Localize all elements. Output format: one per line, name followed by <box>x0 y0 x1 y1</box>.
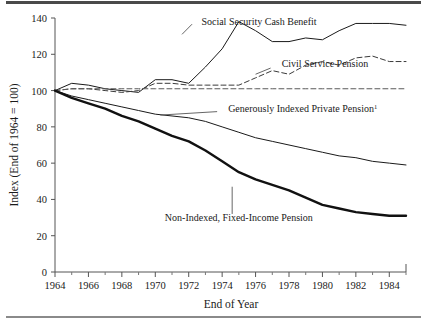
y-tick-label: 140 <box>31 13 47 24</box>
annotation-leader-line <box>160 112 217 115</box>
x-tick-label: 1964 <box>45 280 67 291</box>
x-tick-label: 1976 <box>245 280 266 291</box>
x-tick-group: 1964196619681970197219741976197819801982… <box>45 272 407 291</box>
footnote-superscript: 1 <box>374 103 377 110</box>
axes <box>55 18 406 272</box>
chart-figure: 020406080100120140 196419661968197019721… <box>0 0 427 324</box>
x-tick-label: 1970 <box>145 280 166 291</box>
annotation-leader-line <box>182 24 192 34</box>
series-line <box>55 89 406 91</box>
line-chart-plot: 020406080100120140 196419661968197019721… <box>0 0 427 324</box>
x-tick-label: 1974 <box>212 280 234 291</box>
series-group <box>55 22 406 216</box>
x-tick-label: 1966 <box>78 280 99 291</box>
y-tick-label: 100 <box>31 86 47 97</box>
series-annotation-label: Social Security Cash Benefit <box>201 16 316 27</box>
y-tick-label: 40 <box>37 194 48 205</box>
y-tick-label: 60 <box>37 158 48 169</box>
y-tick-label: 120 <box>31 49 47 60</box>
bottom-rule <box>6 316 421 318</box>
series-line <box>55 91 406 165</box>
y-tick-group: 020406080100120140 <box>31 13 55 278</box>
leader-line-group <box>160 24 270 214</box>
annotation-leader-line <box>256 68 271 74</box>
y-axis-title: Index (End of 1964 = 100) <box>8 83 21 206</box>
series-annotation-label: Generously Indexed Private Pension1 <box>228 103 377 115</box>
y-tick-label: 80 <box>37 122 48 133</box>
y-tick-label: 0 <box>42 267 47 278</box>
x-axis-title: End of Year <box>204 298 259 310</box>
series-annotation-label: Non-Indexed, Fixed-Income Pension <box>165 212 313 223</box>
y-tick-label: 20 <box>37 231 48 242</box>
top-rule <box>6 1 421 4</box>
x-tick-label: 1972 <box>178 280 199 291</box>
x-tick-label: 1980 <box>312 280 333 291</box>
x-tick-label: 1978 <box>279 280 300 291</box>
x-tick-label: 1968 <box>111 280 132 291</box>
series-annotation-label: Civil Service Pension <box>282 58 369 69</box>
x-tick-label: 1982 <box>345 280 366 291</box>
x-tick-label: 1984 <box>379 280 401 291</box>
